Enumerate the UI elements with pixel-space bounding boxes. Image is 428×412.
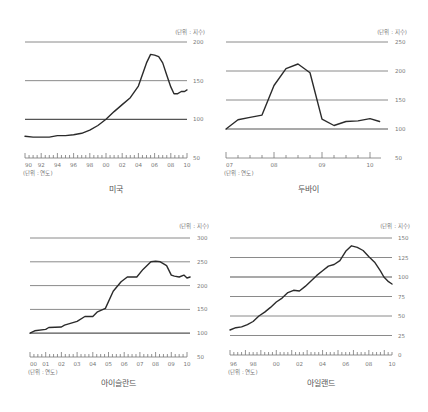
x-tick-label: 04 [135, 162, 142, 168]
x-tick-label: 02 [296, 361, 303, 367]
x-tick-label: 05 [105, 361, 112, 367]
y-tick-label: 150 [197, 306, 208, 312]
x-tick-label: 96 [70, 162, 77, 168]
chart-title: 미국 [109, 185, 123, 194]
charts-canvas: (단위 : 지수)5010015020090929496980002040608… [0, 0, 428, 412]
x-tick-label: 00 [273, 361, 280, 367]
x-tick-label: 90 [25, 162, 32, 168]
x-unit-label: (단위 : 연도) [228, 368, 258, 376]
x-tick-label: 98 [250, 361, 257, 367]
x-tick-label: 96 [230, 361, 237, 367]
x-tick-label: 06 [342, 361, 349, 367]
chart-ireland: (단위 : 지수)0255075100125150969800020406081… [228, 222, 410, 388]
x-tick-label: 04 [319, 361, 326, 367]
data-line [30, 261, 190, 333]
y-tick-label: 50 [398, 313, 405, 319]
data-line [25, 54, 187, 137]
x-tick-label: 03 [74, 361, 81, 367]
y-tick-label: 200 [197, 283, 208, 289]
y-tick-label: 200 [395, 68, 406, 74]
chart-title: 아이슬란드 [101, 378, 136, 388]
x-tick-label: 08 [271, 162, 278, 168]
y-tick-label: 150 [193, 78, 204, 84]
x-tick-label: 07 [226, 162, 233, 168]
x-tick-label: 00 [30, 361, 37, 367]
x-tick-label: 08 [152, 361, 159, 367]
x-unit-label: (단위 : 연도) [23, 169, 53, 177]
x-tick-label: 08 [167, 162, 174, 168]
x-tick-label: 09 [319, 162, 326, 168]
data-line [226, 64, 380, 129]
chart-iceland: (단위 : 지수)5010015020025030000010203040506… [28, 222, 209, 388]
x-tick-label: 09 [168, 361, 175, 367]
y-tick-label: 100 [398, 274, 409, 280]
x-tick-label: 02 [119, 162, 126, 168]
y-tick-label: 200 [193, 39, 204, 45]
y-tick-label: 100 [395, 126, 406, 132]
x-tick-label: 10 [184, 162, 191, 168]
y-tick-label: 250 [395, 39, 406, 45]
chart-title: 두바이 [298, 184, 319, 194]
y-tick-label: 75 [398, 294, 405, 300]
y-tick-label: 300 [197, 235, 208, 241]
x-tick-label: 06 [121, 361, 128, 367]
y-tick-label: 50 [197, 354, 204, 360]
x-tick-label: 07 [136, 361, 143, 367]
x-tick-label: 08 [365, 361, 372, 367]
x-unit-label: (단위 : 연도) [224, 169, 254, 177]
x-tick-label: 94 [54, 162, 61, 168]
y-unit-label: (단위 : 지수) [380, 222, 410, 230]
x-tick-label: 04 [89, 361, 96, 367]
data-line [230, 246, 392, 330]
y-tick-label: 0 [398, 352, 402, 358]
y-tick-label: 125 [398, 255, 409, 261]
x-tick-label: 10 [389, 361, 396, 367]
y-tick-label: 150 [395, 97, 406, 103]
y-tick-label: 100 [197, 330, 208, 336]
y-unit-label: (단위 : 지수) [179, 222, 209, 230]
y-tick-label: 150 [398, 235, 409, 241]
x-tick-label: 92 [38, 162, 45, 168]
y-tick-label: 50 [395, 155, 402, 161]
x-tick-label: 01 [42, 361, 49, 367]
x-tick-label: 10 [184, 361, 191, 367]
x-tick-label: 02 [58, 361, 65, 367]
x-tick-label: 10 [367, 162, 374, 168]
x-tick-label: 00 [103, 162, 110, 168]
y-tick-label: 250 [197, 259, 208, 265]
x-unit-label: (단위 : 연도) [28, 368, 58, 376]
x-tick-label: 06 [151, 162, 158, 168]
y-unit-label: (단위 : 지수) [377, 28, 407, 36]
x-tick-label: 98 [86, 162, 93, 168]
y-tick-label: 25 [398, 333, 405, 339]
chart-dubai: (단위 : 지수)5010015020025007080910(단위 : 연도)… [224, 28, 407, 194]
chart-usa: (단위 : 지수)5010015020090929496980002040608… [23, 28, 205, 194]
chart-title: 아일랜드 [307, 378, 335, 388]
y-tick-label: 100 [193, 116, 204, 122]
y-tick-label: 50 [193, 155, 200, 161]
y-unit-label: (단위 : 지수) [175, 28, 205, 36]
